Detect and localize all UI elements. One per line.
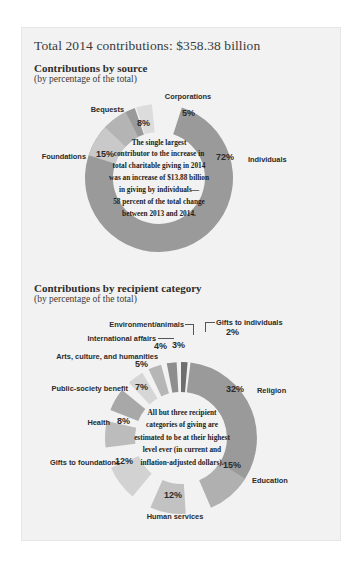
section1-subheading: (by percentage of the total): [34, 74, 137, 84]
leader-environment-animals-2: [193, 324, 194, 335]
pct-individuals: 72%: [216, 152, 234, 162]
pct-religion: 32%: [226, 384, 244, 394]
section2-subheading: (by percentage of the total): [34, 294, 137, 304]
pct-gifts-to-foundations: 12%: [115, 456, 133, 466]
section1-heading: Contributions by source: [34, 62, 147, 74]
pct-foundations: 15%: [96, 149, 114, 159]
pct-human-services: 12%: [164, 490, 182, 500]
pct-bequests: 8%: [137, 118, 150, 128]
pct-corporations: 5%: [182, 108, 195, 118]
pct-public-society-benefit: 7%: [135, 382, 148, 392]
label-foundations: Foundations: [22, 152, 86, 161]
content-card: Total 2014 contributions: $358.38 billio…: [22, 28, 340, 540]
slice-gifts-to-individuals[interactable]: [181, 362, 188, 392]
source-center-note: The single largest contributor to the in…: [107, 112, 211, 244]
label-gifts-to-individuals: Gifts to individuals: [216, 318, 306, 327]
pct-gifts-to-individuals: 2%: [226, 327, 239, 337]
pct-health: 8%: [117, 416, 130, 426]
label-gifts-to-foundations: Gifts to foundations: [50, 458, 108, 468]
label-public-society-benefit: Public-society benefit: [32, 384, 128, 393]
pct-education: 15%: [223, 460, 241, 470]
section2-heading: Contributions by recipient category: [34, 282, 202, 294]
slice-environment-animals[interactable]: [167, 361, 182, 393]
leader-gifts-to-individuals-2: [205, 322, 206, 332]
recipient-center-note: All but three recipient categories of gi…: [130, 390, 234, 486]
label-education: Education: [252, 476, 314, 485]
label-health: Health: [66, 418, 110, 427]
label-environment-animals: Environment/animals: [96, 320, 184, 329]
pct-environment-animals: 3%: [172, 340, 185, 350]
label-religion: Religion: [257, 386, 317, 395]
leader-international-affairs: [158, 338, 174, 339]
leader-gifts-to-individuals: [205, 322, 215, 323]
label-individuals: Individuals: [248, 155, 318, 164]
label-corporations: Corporations: [153, 92, 223, 101]
label-human-services: Human services: [132, 512, 218, 521]
pct-arts-culture-humanities: 5%: [135, 359, 148, 369]
label-bequests: Bequests: [66, 105, 124, 114]
infographic-page: Total 2014 contributions: $358.38 billio…: [0, 0, 358, 565]
pct-international-affairs: 4%: [154, 341, 167, 351]
page-title: Total 2014 contributions: $358.38 billio…: [34, 38, 260, 54]
label-international-affairs: International affairs: [74, 334, 156, 343]
